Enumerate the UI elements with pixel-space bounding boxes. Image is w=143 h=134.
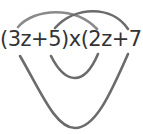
arc-outer <box>20 54 128 128</box>
arcs-layer <box>0 0 143 134</box>
expression-label: (3z+5)x(2z+7) <box>0 26 143 52</box>
foil-diagram: (3z+5)x(2z+7) <box>0 0 143 134</box>
arc-inner <box>51 54 98 78</box>
